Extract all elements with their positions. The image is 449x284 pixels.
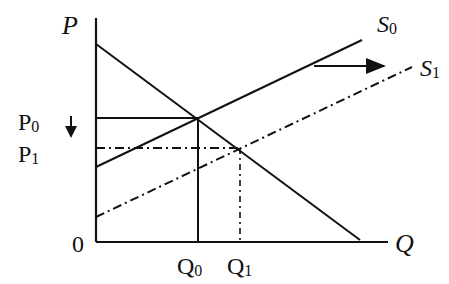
s0-label: S0 (377, 11, 397, 37)
supply-demand-diagram: P Q 0 P0 P1 Q0 Q1 S0 S1 (0, 0, 449, 284)
demand-curve (96, 44, 360, 240)
p1-label: P1 (18, 141, 39, 167)
q0-label: Q0 (177, 253, 202, 279)
y-axis-label: P (61, 11, 78, 40)
s1-label: S1 (420, 55, 440, 81)
x-axis-label: Q (395, 229, 414, 258)
price-down-arrowhead (65, 126, 77, 138)
q1-label: Q1 (227, 253, 252, 279)
origin-label: 0 (72, 231, 84, 257)
p0-label: P0 (18, 109, 39, 135)
supply-curve-s1 (96, 67, 412, 217)
